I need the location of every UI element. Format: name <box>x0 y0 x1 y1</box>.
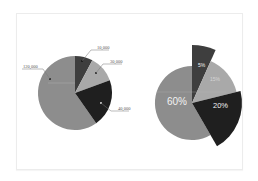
right-label-20: 20% <box>213 101 228 110</box>
right-pie-chart: 5% 15% 20% 60% <box>155 45 242 146</box>
right-label-15: 15% <box>210 76 221 82</box>
left-label-120000: 120,000 <box>23 64 38 70</box>
left-label-40000: 40,000 <box>118 106 131 112</box>
left-label-10000: 10,000 <box>97 45 110 51</box>
left-pie-chart: 10,000 30,000 40,000 120,000 <box>22 45 131 130</box>
right-label-60: 60% <box>167 96 187 107</box>
left-label-30000: 30,000 <box>110 59 123 65</box>
right-label-5: 5% <box>198 62 206 68</box>
charts-canvas: 10,000 30,000 40,000 120,000 5% 15% 20% … <box>0 0 258 181</box>
